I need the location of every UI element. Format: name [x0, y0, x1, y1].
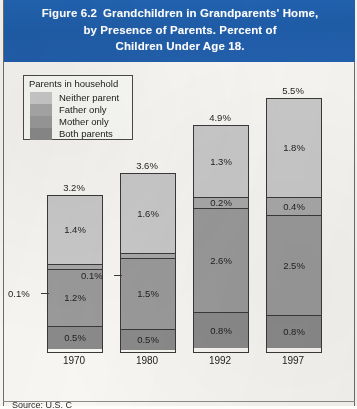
legend-swatch-father-only — [30, 104, 52, 116]
bar-1970-callout-father-only: 0.1% — [8, 288, 30, 299]
bar-1970-label-both-parents: 0.5% — [48, 333, 102, 343]
bar-1997-label-neither-parent: 1.8% — [267, 143, 321, 153]
bar-1970-seg-neither-parent[interactable]: 1.4% — [48, 196, 102, 264]
bar-1980[interactable]: 1.6% 1.5% 0.5% — [120, 173, 176, 353]
bar-1980-seg-both-parents[interactable]: 0.5% — [121, 329, 175, 350]
figure-title-line-1: Grandchildren in Grandparents' Home, — [103, 7, 318, 19]
legend-swatch-neither-parent — [30, 92, 52, 104]
bar-1997-label-father-only: 0.4% — [267, 202, 321, 212]
bar-1992-label-both-parents: 0.8% — [194, 326, 248, 336]
bar-1997-seg-both-parents[interactable]: 0.8% — [267, 315, 321, 348]
bar-total-1970: 3.2% — [38, 182, 110, 193]
bar-1980-label-neither-parent: 1.6% — [121, 209, 175, 219]
bar-category-1992: 1992 — [184, 355, 256, 366]
bar-1997-label-mother-only: 2.5% — [267, 261, 321, 271]
bar-1980-seg-neither-parent[interactable]: 1.6% — [121, 174, 175, 253]
legend-label-both-parents: Both parents — [59, 128, 113, 139]
bar-1980-seg-mother-only[interactable]: 1.5% — [121, 258, 175, 329]
bar-1997-seg-neither-parent[interactable]: 1.8% — [267, 99, 321, 197]
figure-title-line-2: by Presence of Parents. Percent of — [83, 24, 276, 36]
figure-source-note: Source: U.S. C — [12, 400, 72, 409]
bar-category-1997: 1997 — [257, 355, 329, 366]
bar-total-1980: 3.6% — [111, 160, 183, 171]
bar-1970-label-mother-only: 1.2% — [48, 293, 102, 303]
bar-1997[interactable]: 1.8% 0.4% 2.5% 0.8% — [266, 98, 322, 353]
bar-total-1992: 4.9% — [184, 112, 256, 123]
bar-1992-label-mother-only: 2.6% — [194, 256, 248, 266]
bar-1992-seg-father-only[interactable]: 0.2% — [194, 197, 248, 208]
bar-1992[interactable]: 1.3% 0.2% 2.6% 0.8% — [193, 125, 249, 353]
figure-title: Figure 6.2Grandchildren in Grandparents'… — [14, 5, 346, 55]
bar-1992-seg-both-parents[interactable]: 0.8% — [194, 312, 248, 348]
bar-1992-label-neither-parent: 1.3% — [194, 157, 248, 167]
legend-title: Parents in household — [29, 78, 118, 89]
bar-1980-label-both-parents: 0.5% — [121, 335, 175, 345]
bar-1980-label-mother-only: 1.5% — [121, 289, 175, 299]
legend-swatch-mother-only — [30, 116, 52, 128]
bar-1980-callout-father-only: 0.1% — [81, 270, 103, 281]
bar-1992-seg-neither-parent[interactable]: 1.3% — [194, 126, 248, 197]
legend-swatch-both-parents — [30, 128, 52, 140]
legend-label-father-only: Father only — [59, 104, 107, 115]
bar-1980-callout-leader — [114, 275, 122, 276]
bar-1997-seg-father-only[interactable]: 0.4% — [267, 197, 321, 215]
legend-label-neither-parent: Neither parent — [59, 92, 119, 103]
chart-plot-area: Parents in household Neither parent Fath… — [0, 62, 357, 406]
bar-1970-seg-both-parents[interactable]: 0.5% — [48, 326, 102, 349]
bar-1970-label-neither-parent: 1.4% — [48, 225, 102, 235]
figure-number: Figure 6.2 — [42, 7, 97, 19]
bar-1997-seg-mother-only[interactable]: 2.5% — [267, 215, 321, 315]
legend-label-mother-only: Mother only — [59, 116, 109, 127]
figure-title-banner: Figure 6.2Grandchildren in Grandparents'… — [4, 0, 355, 62]
bar-1992-label-father-only: 0.2% — [194, 198, 248, 208]
bar-category-1970: 1970 — [38, 355, 110, 366]
chart-legend: Parents in household Neither parent Fath… — [23, 75, 133, 140]
bar-1997-label-both-parents: 0.8% — [267, 327, 321, 337]
bar-1970-callout-leader — [41, 293, 49, 294]
bar-total-1997: 5.5% — [257, 85, 329, 96]
bar-1992-seg-mother-only[interactable]: 2.6% — [194, 208, 248, 312]
bar-category-1980: 1980 — [111, 355, 183, 366]
figure-title-line-3: Children Under Age 18. — [116, 40, 245, 52]
